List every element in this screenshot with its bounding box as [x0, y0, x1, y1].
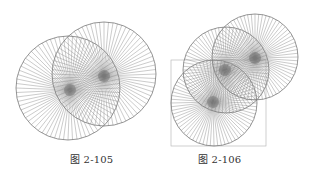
spoked-circle	[52, 22, 156, 126]
figure-2-106-spoked-circles	[171, 14, 298, 146]
spoked-circle	[212, 14, 298, 100]
caption-figure-2-106: 图 2-106	[198, 151, 241, 166]
spoked-circle	[16, 36, 120, 140]
figure-canvas	[0, 0, 312, 183]
hub-shading	[98, 70, 110, 82]
hub-shading	[249, 52, 261, 64]
hub-shading	[219, 64, 231, 76]
caption-figure-2-105: 图 2-105	[70, 151, 113, 166]
figure-2-105-spoked-circles	[16, 22, 156, 140]
